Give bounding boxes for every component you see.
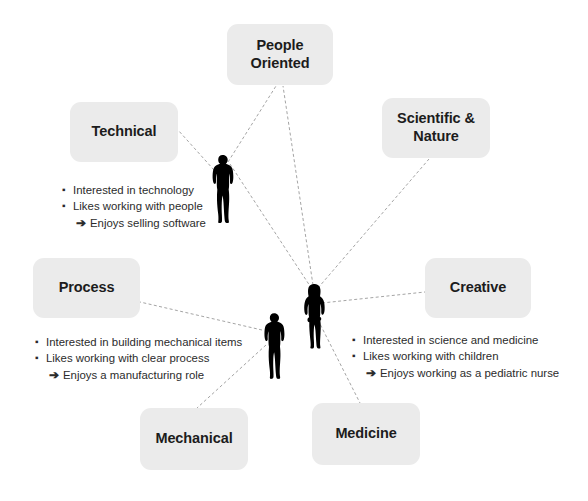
node-label: Technical xyxy=(92,123,157,141)
bullet-icon: ▪ xyxy=(62,182,73,198)
connector-line xyxy=(140,302,262,330)
note-text: Enjoys selling software xyxy=(90,217,206,229)
connector-line xyxy=(283,86,313,285)
bullet-icon: ▪ xyxy=(352,348,363,364)
note-bullet: ▪Interested in building mechanical items xyxy=(35,334,242,350)
connector-line xyxy=(230,164,310,286)
figure-man-bottom xyxy=(260,311,287,381)
note-block-process-notes: ▪Interested in building mechanical items… xyxy=(35,334,242,383)
arrow-icon: ➔ xyxy=(49,367,63,383)
figure-man-top xyxy=(208,154,236,224)
arrow-icon: ➔ xyxy=(76,215,90,231)
note-conclusion: ➔Enjoys a manufacturing role xyxy=(35,367,242,383)
note-bullet: ▪Interested in science and medicine xyxy=(352,332,559,348)
note-conclusion: ➔Enjoys working as a pediatric nurse xyxy=(352,365,559,381)
node-mechanical[interactable]: Mechanical xyxy=(140,408,248,470)
note-bullet: ▪Likes working with clear process xyxy=(35,350,242,366)
node-label: People Oriented xyxy=(251,37,310,72)
note-text: Likes working with clear process xyxy=(46,352,209,364)
note-bullet: ▪Likes working with children xyxy=(352,348,559,364)
node-label: Creative xyxy=(450,279,506,297)
note-text: Likes working with people xyxy=(73,200,203,212)
bullet-icon: ▪ xyxy=(35,334,46,350)
note-text: Enjoys a manufacturing role xyxy=(63,369,204,381)
bullet-icon: ▪ xyxy=(352,332,363,348)
note-block-medicine-notes: ▪Interested in science and medicine▪Like… xyxy=(352,332,559,381)
note-text: Interested in science and medicine xyxy=(363,334,538,346)
node-label: Scientific & Nature xyxy=(397,110,475,145)
note-text: Interested in building mechanical items xyxy=(46,336,242,348)
connector-line xyxy=(318,159,429,288)
note-text: Likes working with children xyxy=(363,350,498,362)
node-scientific-nature[interactable]: Scientific & Nature xyxy=(382,98,490,158)
note-block-technical-notes: ▪Interested in technology▪Likes working … xyxy=(62,182,206,231)
note-text: Enjoys working as a pediatric nurse xyxy=(380,367,559,379)
connector-line xyxy=(228,86,276,162)
node-technical[interactable]: Technical xyxy=(70,102,178,162)
node-label: Mechanical xyxy=(155,430,232,448)
arrow-icon: ➔ xyxy=(366,365,380,381)
note-conclusion: ➔Enjoys selling software xyxy=(62,215,206,231)
bullet-icon: ▪ xyxy=(35,350,46,366)
diagram-canvas: People OrientedTechnicalScientific & Nat… xyxy=(0,0,588,501)
node-medicine[interactable]: Medicine xyxy=(312,403,420,465)
bullet-icon: ▪ xyxy=(62,198,73,214)
figure-woman xyxy=(301,282,328,351)
note-text: Interested in technology xyxy=(73,184,194,196)
node-process[interactable]: Process xyxy=(33,258,140,318)
node-creative[interactable]: Creative xyxy=(425,258,531,318)
node-label: Medicine xyxy=(335,425,396,443)
note-bullet: ▪Interested in technology xyxy=(62,182,206,198)
connector-line xyxy=(322,292,425,303)
note-bullet: ▪Likes working with people xyxy=(62,198,206,214)
node-label: Process xyxy=(59,279,115,297)
node-people-oriented[interactable]: People Oriented xyxy=(227,24,333,85)
